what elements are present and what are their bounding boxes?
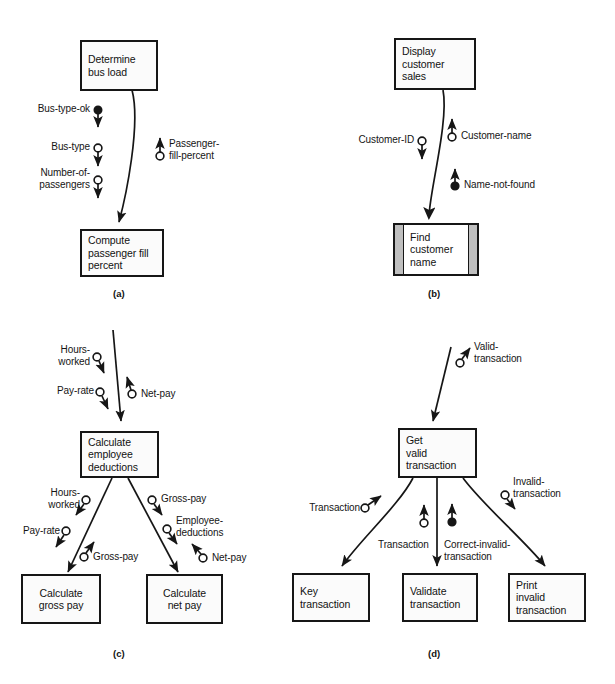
- couple-number-of-passengers: [94, 176, 102, 198]
- library-bar-left: [395, 225, 404, 274]
- module-label: Validate transaction: [410, 585, 460, 610]
- module-find-customer-name[interactable]: Find customer name: [393, 223, 479, 276]
- couple-name-not-found: [451, 169, 459, 190]
- couple-customer-name: [448, 119, 456, 141]
- module-label: Display customer sales: [402, 45, 444, 82]
- couple-label-d-valid-transaction: Valid- transaction: [474, 341, 564, 364]
- couple-c-net-pay-right: [192, 544, 207, 562]
- caption-panel-d: (d): [428, 648, 440, 659]
- couple-d-transaction-left: [361, 496, 381, 512]
- couple-c-hours-worked-top: [93, 353, 104, 373]
- module-get-valid-transaction[interactable]: Get valid transaction: [398, 428, 477, 478]
- module-label: Calculate gross pay: [39, 587, 84, 612]
- couple-label-passenger-fill-percent: Passenger- fill-percent: [169, 138, 249, 161]
- call-arrow-determine-to-compute: [119, 90, 135, 222]
- module-calculate-employee-deductions[interactable]: Calculate employee deductions: [80, 431, 159, 478]
- couple-c-gross-pay-right: [148, 496, 162, 515]
- couple-d-transaction-middle: [420, 505, 428, 527]
- couple-label-d-correct-invalid-transaction: Correct-invalid- transaction: [444, 539, 538, 562]
- couple-label-bus-type: Bus-type: [20, 141, 90, 153]
- couple-label-number-of-passengers: Number-of- passengers: [8, 167, 90, 190]
- module-label: Key transaction: [300, 585, 350, 610]
- couple-bus-type-ok: [94, 106, 102, 127]
- module-label: Get valid transaction: [406, 434, 456, 471]
- couple-bus-type: [94, 144, 102, 166]
- couple-label-c-gross-pay-left: Gross-pay: [93, 551, 165, 563]
- couple-label-name-not-found: Name-not-found: [464, 179, 569, 191]
- couple-label-c-employee-deductions-right: Employee- deductions: [176, 515, 256, 538]
- couple-label-c-net-pay-top: Net-pay: [141, 388, 211, 400]
- couple-label-d-invalid-transaction: Invalid- transaction: [513, 476, 599, 499]
- couple-label-customer-id: Customer-ID: [330, 134, 414, 146]
- panel-b-connectors: [418, 90, 459, 216]
- module-determine-bus-load[interactable]: Determine bus load: [80, 40, 158, 91]
- couple-d-correct-invalid-transaction: [448, 504, 456, 526]
- call-arrow-to-key-transaction: [342, 478, 413, 566]
- module-label: Calculate net pay: [163, 587, 206, 612]
- couple-label-c-hours-worked-top: Hours- worked: [26, 344, 90, 367]
- couple-c-net-pay-top: [127, 377, 136, 398]
- module-compute-passenger-fill-percent[interactable]: Compute passenger fill percent: [80, 229, 164, 277]
- caption-panel-c: (c): [113, 648, 125, 659]
- module-label: Calculate employee deductions: [88, 436, 138, 473]
- module-display-customer-sales[interactable]: Display customer sales: [394, 38, 476, 90]
- couple-customer-id: [418, 137, 426, 159]
- module-calculate-gross-pay[interactable]: Calculate gross pay: [21, 574, 101, 624]
- library-bar-right: [468, 225, 477, 274]
- module-key-transaction[interactable]: Key transaction: [292, 573, 370, 622]
- couple-c-pay-rate-top: [96, 388, 108, 409]
- module-label: Determine bus load: [88, 53, 136, 78]
- caption-panel-a: (a): [113, 288, 125, 299]
- module-calculate-net-pay[interactable]: Calculate net pay: [146, 574, 223, 624]
- couple-c-employee-deductions-right: [163, 525, 177, 544]
- couple-label-c-net-pay-right: Net-pay: [212, 552, 278, 564]
- couple-label-bus-type-ok: Bus-type-ok: [10, 103, 90, 115]
- couple-label-d-transaction-left: Transaction: [288, 502, 360, 514]
- module-label: Compute passenger fill percent: [88, 234, 148, 271]
- couple-passenger-fill-percent: [156, 138, 164, 160]
- call-arrow-into-calculate-employee-deductions: [113, 330, 121, 421]
- call-arrow-into-get-valid-transaction: [433, 347, 451, 421]
- panel-a-connectors: [94, 90, 164, 222]
- couple-c-gross-pay-left: [80, 542, 94, 561]
- module-print-invalid-transaction[interactable]: Print invalid transaction: [508, 573, 586, 622]
- couple-label-c-hours-worked-left: Hours- worked: [14, 487, 80, 510]
- caption-panel-b: (b): [428, 288, 440, 299]
- call-arrow-display-to-find: [429, 90, 444, 216]
- couple-label-customer-name: Customer-name: [461, 130, 561, 142]
- couple-label-d-transaction-middle: Transaction: [378, 539, 454, 551]
- figure-sheet: Determine bus load Compute passenger fil…: [0, 0, 615, 684]
- couple-label-c-gross-pay-right: Gross-pay: [161, 493, 233, 505]
- library-inner: Find customer name: [404, 225, 468, 274]
- couple-d-valid-transaction: [456, 348, 470, 367]
- module-label: Print invalid transaction: [516, 579, 566, 616]
- module-label: Find customer name: [410, 231, 453, 268]
- couple-label-c-pay-rate-left: Pay-rate: [2, 525, 60, 537]
- module-validate-transaction[interactable]: Validate transaction: [402, 573, 478, 622]
- couple-label-c-pay-rate-top: Pay-rate: [34, 385, 94, 397]
